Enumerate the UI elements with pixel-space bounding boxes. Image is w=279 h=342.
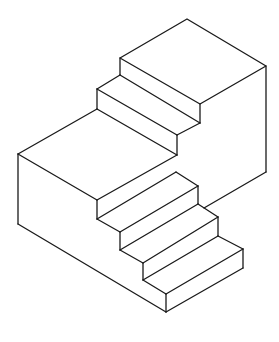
staircase-drawing	[0, 0, 279, 342]
upper-block	[120, 19, 266, 172]
lower-steps	[97, 172, 266, 312]
upper-steps	[97, 58, 200, 155]
